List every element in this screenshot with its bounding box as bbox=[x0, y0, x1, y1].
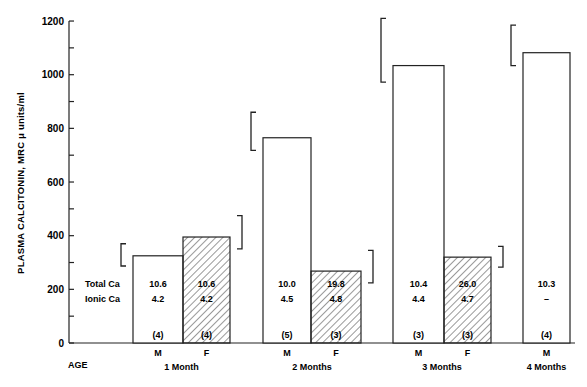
error-bracket bbox=[498, 246, 503, 267]
sex-label: M bbox=[283, 348, 291, 358]
x-axis-title: AGE bbox=[68, 360, 88, 370]
bar-1-month-f bbox=[183, 237, 230, 343]
y-axis-title: PLASMA CALCITONIN, MRC μ units/ml bbox=[15, 92, 26, 274]
total-ca-value: 26.0 bbox=[459, 279, 477, 289]
sex-label: F bbox=[465, 348, 471, 358]
ionic-ca-value: 4.5 bbox=[281, 294, 294, 304]
ionic-ca-value: 4.2 bbox=[200, 294, 213, 304]
total-ca-value: 10.4 bbox=[410, 279, 428, 289]
error-bracket bbox=[381, 18, 386, 82]
calcitonin-bar-chart: 020040060080010001200PLASMA CALCITONIN, … bbox=[0, 0, 587, 387]
y-tick-label: 400 bbox=[47, 230, 64, 241]
y-tick-label: 0 bbox=[58, 338, 64, 349]
error-bracket bbox=[511, 25, 516, 66]
sex-label: M bbox=[543, 348, 551, 358]
ionic-ca-value: 4.7 bbox=[461, 294, 474, 304]
sex-label: M bbox=[415, 348, 423, 358]
n-count: (3) bbox=[413, 330, 424, 340]
ionic-ca-value: – bbox=[544, 294, 549, 304]
bar-2-months-m bbox=[263, 138, 311, 343]
total-ca-value: 10.6 bbox=[149, 279, 167, 289]
total-ca-value: 19.8 bbox=[327, 279, 345, 289]
n-count: (3) bbox=[331, 330, 342, 340]
y-tick-label: 1000 bbox=[42, 69, 65, 80]
y-tick-label: 600 bbox=[47, 177, 64, 188]
total-ca-value: 10.6 bbox=[198, 279, 216, 289]
ionic-ca-label: Ionic Ca bbox=[85, 294, 121, 304]
error-bracket bbox=[368, 250, 373, 282]
y-tick-label: 200 bbox=[47, 284, 64, 295]
total-ca-value: 10.3 bbox=[538, 279, 556, 289]
y-tick-label: 800 bbox=[47, 123, 64, 134]
n-count: (4) bbox=[541, 330, 552, 340]
y-tick-label: 1200 bbox=[42, 16, 65, 27]
n-count: (3) bbox=[462, 330, 473, 340]
ionic-ca-value: 4.2 bbox=[152, 294, 165, 304]
n-count: (4) bbox=[153, 330, 164, 340]
n-count: (5) bbox=[282, 330, 293, 340]
error-bracket bbox=[251, 112, 256, 150]
age-group-label: 3 Months bbox=[422, 362, 462, 372]
ionic-ca-value: 4.4 bbox=[412, 294, 425, 304]
total-ca-value: 10.0 bbox=[278, 279, 296, 289]
error-bracket bbox=[237, 216, 242, 249]
bars bbox=[121, 18, 570, 343]
age-group-label: 4 Months bbox=[527, 362, 567, 372]
age-group-label: 1 Month bbox=[164, 362, 199, 372]
sex-label: F bbox=[333, 348, 339, 358]
n-count: (4) bbox=[201, 330, 212, 340]
error-bracket bbox=[121, 244, 126, 266]
sex-label: M bbox=[154, 348, 162, 358]
sex-label: F bbox=[204, 348, 210, 358]
total-ca-label: Total Ca bbox=[85, 279, 121, 289]
age-group-label: 2 Months bbox=[292, 362, 332, 372]
ionic-ca-value: 4.8 bbox=[330, 294, 343, 304]
